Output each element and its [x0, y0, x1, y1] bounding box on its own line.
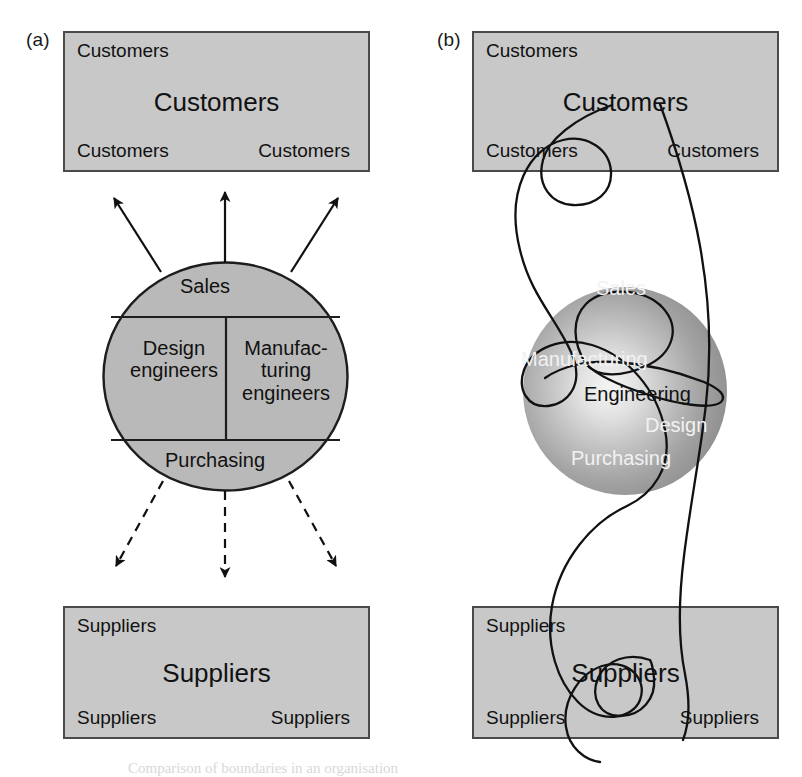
customers-label-bottom-left: Customers	[486, 140, 578, 162]
arrow-up-right	[291, 198, 338, 272]
curve-engineering-link	[545, 362, 723, 406]
sphere-body	[523, 287, 727, 495]
arrow-up-left	[114, 198, 161, 272]
customers-label-top-left: Customers	[77, 40, 169, 62]
circle-outline	[104, 263, 348, 491]
segment-label-line: Design engineers	[130, 337, 218, 381]
suppliers-label-bottom-right: Suppliers	[680, 707, 759, 729]
panel-a-downward-arrows	[116, 481, 336, 577]
customers-label-top-left: Customers	[486, 40, 578, 62]
customers-label-bottom-right: Customers	[258, 140, 350, 162]
sphere-label-sales: Sales	[596, 277, 646, 300]
customers-label-bottom-right: Customers	[667, 140, 759, 162]
arrow-down-right	[289, 481, 336, 566]
panel-label-b: (b)	[437, 29, 461, 51]
suppliers-label-center: Suppliers	[162, 657, 270, 688]
segment-label-purchasing: Purchasing	[165, 449, 265, 472]
sphere-label-manufacturing: Manufacturing	[521, 348, 648, 371]
sphere-label-engineering: Engineering	[584, 383, 691, 406]
sphere-label-design: Design	[645, 414, 707, 437]
panel-label-a: (a)	[26, 29, 50, 51]
panel-b-customers-box: Customers Customers Customers Customers	[472, 31, 779, 172]
arrow-down-left	[116, 481, 163, 566]
panel-a-suppliers-box: Suppliers Suppliers Suppliers Suppliers	[63, 606, 370, 739]
suppliers-label-bottom-left: Suppliers	[77, 707, 156, 729]
suppliers-label-bottom-left: Suppliers	[486, 707, 565, 729]
suppliers-label-top-left: Suppliers	[486, 615, 565, 637]
customers-label-center: Customers	[563, 86, 689, 117]
suppliers-label-top-left: Suppliers	[77, 615, 156, 637]
curve-sales-loop	[576, 292, 673, 375]
panel-a-upward-arrows	[114, 192, 338, 272]
customers-label-center: Customers	[154, 86, 280, 117]
suppliers-label-bottom-right: Suppliers	[271, 707, 350, 729]
panel-a-customers-box: Customers Customers Customers Customers	[63, 31, 370, 172]
segment-label-manufacturing-engineers: Manufac- turing engineers	[232, 337, 340, 404]
segment-label-sales: Sales	[180, 275, 230, 298]
figure-caption: Comparison of boundaries in an organisat…	[128, 760, 398, 777]
panel-a-organisation-circle	[104, 263, 348, 491]
panel-b-suppliers-box: Suppliers Suppliers Suppliers Suppliers	[472, 606, 779, 739]
figure-root: (a) Customers Customers Customers Custom…	[0, 0, 802, 777]
sphere-label-purchasing: Purchasing	[571, 447, 671, 470]
suppliers-label-center: Suppliers	[571, 657, 679, 688]
segment-label-design-engineers: Design engineers	[126, 337, 222, 382]
segment-label-line: Manufac- turing engineers	[242, 337, 330, 404]
panel-b-organisation-sphere	[523, 287, 727, 495]
customers-label-bottom-left: Customers	[77, 140, 169, 162]
